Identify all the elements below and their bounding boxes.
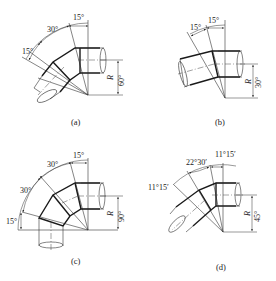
caption: (a) <box>71 117 81 127</box>
total-angle-label: 30° <box>254 77 263 88</box>
panel-a: R 60° 15° 30° 15° (a) <box>22 13 126 127</box>
radius-label: R <box>244 79 253 85</box>
panel-d: R 45° 11°15′ 22°30′ 11°15′ (d) <box>148 150 262 272</box>
angle-label: 30° <box>47 25 58 34</box>
total-angle-label: 45° <box>253 211 262 222</box>
radius-label: R <box>106 75 115 81</box>
caption: (d) <box>216 262 226 272</box>
panel-c: R 90° 15° 30° 30° 15° (c) <box>6 151 126 266</box>
angle-label: 22°30′ <box>186 158 207 167</box>
total-angle-label: 60° <box>117 75 126 86</box>
radius-label: R <box>243 211 252 217</box>
angle-label: 15° <box>73 151 84 160</box>
angle-label: 15° <box>6 217 17 226</box>
caption: (b) <box>215 117 225 127</box>
angle-label: 30° <box>47 160 58 169</box>
radius-label: R <box>106 211 115 217</box>
caption: (c) <box>71 256 81 266</box>
angle-label: 11°15′ <box>148 183 169 192</box>
angle-label: 15° <box>190 23 201 32</box>
total-angle-label: 90° <box>117 211 126 222</box>
angle-label: 30° <box>20 186 31 195</box>
angle-label: 15° <box>22 47 33 56</box>
angle-label: 11°15′ <box>215 150 236 159</box>
mitered-elbow-diagram: R 60° 15° 30° 15° (a) R 30° <box>0 0 276 281</box>
angle-label: 15° <box>208 16 219 25</box>
panel-b: R 30° 15° 15° (b) <box>177 16 263 127</box>
angle-label: 15° <box>73 13 84 22</box>
